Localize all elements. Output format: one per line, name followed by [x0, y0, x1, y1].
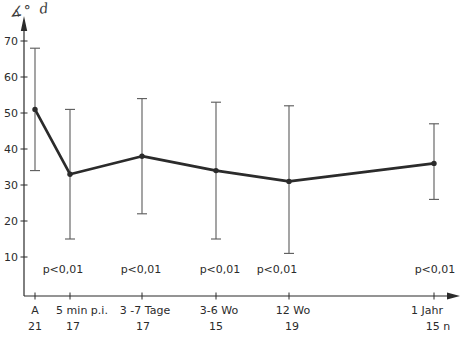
p-value-label: p<0,01: [257, 263, 298, 276]
y-tick-label: 20: [4, 215, 18, 228]
sample-size-label: 17: [66, 320, 80, 333]
p-value-label: p<0,01: [121, 263, 162, 276]
data-point: [139, 154, 144, 159]
x-category-label: 12 Wo: [276, 304, 311, 317]
x-category-label: 1 Jahr: [411, 304, 443, 317]
x-category-label: 3-6 Wo: [200, 304, 239, 317]
data-point: [213, 168, 218, 173]
x-axis-arrow: [447, 292, 460, 299]
sample-size-label: 21: [28, 320, 42, 333]
data-line: [35, 109, 434, 181]
sample-size-label: 15 n: [426, 320, 450, 333]
chart-figure: ∡° d 10203040506070p<0,01p<0,01p<0,01p<0…: [0, 0, 463, 340]
y-tick-label: 50: [4, 107, 18, 120]
p-value-label: p<0,01: [43, 263, 84, 276]
y-tick-label: 30: [4, 179, 18, 192]
y-tick-label: 70: [4, 35, 18, 48]
y-tick-label: 10: [4, 251, 18, 264]
sample-size-label: 19: [285, 320, 299, 333]
x-category-label: A: [31, 304, 39, 317]
p-value-label: p<0,01: [200, 263, 241, 276]
line-chart: 10203040506070p<0,01p<0,01p<0,01p<0,01p<…: [0, 0, 463, 340]
data-point: [32, 107, 37, 112]
data-point: [286, 179, 291, 184]
y-tick-label: 40: [4, 143, 18, 156]
data-point: [67, 172, 72, 177]
sample-size-label: 17: [136, 320, 150, 333]
data-point: [431, 161, 436, 166]
x-category-label: 3 -7 Tage: [120, 304, 171, 317]
sample-size-label: 15: [209, 320, 223, 333]
y-tick-label: 60: [4, 71, 18, 84]
x-category-label: 5 min p.i.: [56, 304, 108, 317]
p-value-label: p<0,01: [415, 263, 456, 276]
